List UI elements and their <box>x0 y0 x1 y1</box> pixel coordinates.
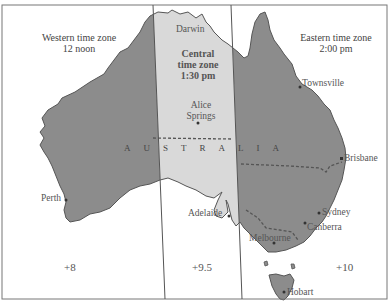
city-marker-brisbane <box>340 157 343 160</box>
central-utc-offset: +9.5 <box>192 262 212 273</box>
eastern-zone-time: 2:00 pm <box>292 43 380 54</box>
city-label-adelaide: Adelaide <box>188 208 222 219</box>
western-zone-label: Western time zone 12 noon <box>34 32 124 54</box>
city-label-darwin: Darwin <box>176 24 205 35</box>
city-label-sydney: Sydney <box>322 207 351 218</box>
city-marker-sydney <box>318 212 321 215</box>
eastern-utc-offset: +10 <box>336 262 353 273</box>
city-label-hobart: Hobart <box>287 287 313 298</box>
western-utc-offset: +8 <box>64 262 76 273</box>
eastern-zone-label: Eastern time zone 2:00 pm <box>292 32 380 54</box>
central-zone-label: Central time zone 1:30 pm <box>166 48 230 81</box>
city-label-brisbane: Brisbane <box>344 153 378 164</box>
western-zone-time: 12 noon <box>34 43 124 54</box>
western-zone-name: Western time zone <box>34 32 124 43</box>
bass-strait-island-1 <box>264 261 268 266</box>
central-zone-name-2: time zone <box>166 59 230 70</box>
city-label-melbourne: Melbourne <box>249 233 291 244</box>
bass-strait-island-2 <box>291 264 295 269</box>
city-label-alice-springs: Alice Springs <box>186 100 216 122</box>
country-label: AUSTRALIA <box>124 143 292 154</box>
central-zone-name-1: Central <box>166 48 230 59</box>
eastern-zone-name: Eastern time zone <box>292 32 380 43</box>
city-marker-adelaide <box>228 215 231 218</box>
central-zone-time: 1:30 pm <box>166 70 230 81</box>
alice-springs-line1: Alice <box>186 100 216 111</box>
city-label-perth: Perth <box>41 193 61 204</box>
alice-springs-line2: Springs <box>186 111 216 122</box>
city-marker-perth <box>65 199 68 202</box>
city-label-canberra: Canberra <box>307 222 342 233</box>
city-marker-hobart <box>283 291 286 294</box>
city-label-townsville: Townsville <box>302 78 344 89</box>
